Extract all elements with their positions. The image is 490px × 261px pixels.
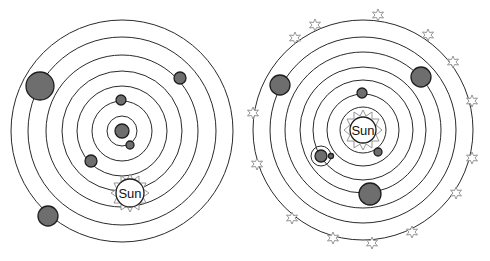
planet (357, 88, 367, 98)
star-icon (248, 107, 259, 119)
solar-system-models-diagram: Sun Sun (0, 0, 490, 261)
heliocentric-model: Sun (248, 9, 478, 249)
planet (38, 206, 58, 226)
geocentric-model: Sun (11, 20, 233, 242)
planet (374, 148, 382, 156)
star-icon (373, 9, 384, 21)
star-icon (423, 29, 434, 41)
sun-label: Sun (351, 123, 374, 138)
star-icon (252, 158, 263, 170)
star-icon (328, 232, 339, 244)
earth-center (115, 124, 129, 138)
planet (270, 75, 290, 95)
star-icon (407, 226, 418, 238)
planet (174, 72, 186, 84)
star-icon (290, 32, 301, 44)
planet-large (359, 183, 381, 205)
planet-earth (315, 150, 327, 162)
sun-icon: Sun (111, 174, 149, 212)
planet-large (26, 72, 54, 100)
sun-label: Sun (118, 186, 141, 201)
star-icon (287, 212, 298, 224)
sun-icon: Sun (344, 110, 382, 150)
star-icon (451, 187, 462, 199)
planet (116, 95, 126, 105)
moon (329, 154, 334, 159)
planet (411, 67, 431, 87)
planet (85, 155, 97, 167)
planet-moon (126, 141, 134, 149)
